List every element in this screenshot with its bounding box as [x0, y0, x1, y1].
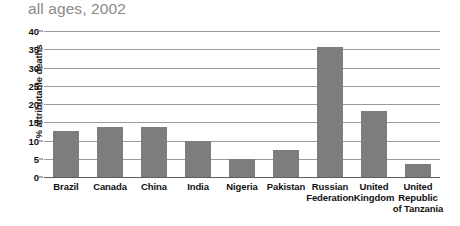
bar-chart-figure: attributable deaths, both sexes, all age…	[0, 0, 460, 226]
bar-slot	[264, 31, 308, 177]
x-label-line: Republic	[398, 192, 437, 203]
x-label-line: Russian	[312, 181, 348, 192]
x-label-line: United	[360, 181, 389, 192]
y-tick-mark-5	[39, 158, 43, 159]
bar-slot	[308, 31, 352, 177]
bar-united-kingdom	[361, 111, 387, 177]
bar-slot	[220, 31, 264, 177]
y-tick-mark-30	[39, 67, 43, 68]
y-tick-label-40: 40	[28, 26, 39, 37]
x-label-line: Brazil	[53, 181, 78, 192]
x-label-line: India	[187, 181, 209, 192]
x-label-line: Nigeria	[226, 181, 258, 192]
y-tick-label-35: 35	[28, 44, 39, 55]
plot-area: 0510152025303540	[44, 31, 440, 177]
bar-slot	[88, 31, 132, 177]
bar-canada	[97, 127, 123, 177]
y-tick-mark-40	[39, 31, 43, 32]
bar-slot	[44, 31, 88, 177]
bar-nigeria	[229, 159, 255, 177]
y-tick-label-20: 20	[28, 99, 39, 110]
bar-slot	[352, 31, 396, 177]
gridline-0	[44, 177, 440, 178]
x-label-line: China	[141, 181, 167, 192]
y-tick-mark-0	[39, 177, 43, 178]
bar-slot	[132, 31, 176, 177]
x-axis-labels: BrazilCanadaChinaIndiaNigeriaPakistanRus…	[44, 181, 440, 226]
y-tick-label-5: 5	[34, 153, 39, 164]
bar-slot	[176, 31, 220, 177]
bar-slot	[396, 31, 440, 177]
x-axis-label-united-republic-of-tanzania: UnitedRepublicof Tanzania	[388, 181, 448, 214]
bars-group	[44, 31, 440, 177]
bar-united-republic-of-tanzania	[405, 164, 431, 178]
y-tick-mark-10	[39, 140, 43, 141]
y-tick-mark-35	[39, 49, 43, 50]
y-tick-label-25: 25	[28, 80, 39, 91]
x-label-line: of Tanzania	[393, 203, 443, 214]
y-tick-label-15: 15	[28, 117, 39, 128]
bar-india	[185, 141, 211, 178]
bar-china	[141, 127, 167, 177]
y-tick-mark-20	[39, 104, 43, 105]
y-tick-label-10: 10	[28, 135, 39, 146]
bar-pakistan	[273, 150, 299, 177]
y-tick-label-30: 30	[28, 62, 39, 73]
x-label-line: United	[404, 181, 433, 192]
y-tick-mark-15	[39, 122, 43, 123]
bar-russian-federation	[317, 47, 343, 177]
x-label-line: Canada	[93, 181, 127, 192]
bar-brazil	[53, 131, 79, 177]
y-tick-mark-25	[39, 85, 43, 86]
